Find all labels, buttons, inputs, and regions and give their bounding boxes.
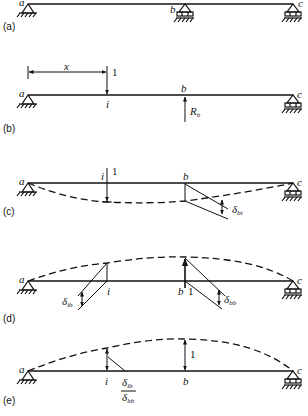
label-b: b: [178, 285, 184, 297]
offset-line: [78, 263, 107, 296]
label-b: b: [183, 375, 189, 387]
influence-line: [28, 339, 293, 371]
label-c: c: [298, 0, 303, 9]
label-i: i: [106, 98, 109, 110]
panel-tag: (b): [3, 123, 15, 134]
label-c: c: [297, 274, 302, 286]
label-c: c: [297, 176, 302, 188]
label-b: b: [183, 170, 189, 182]
label-i: i: [101, 170, 104, 182]
panel-e: 1 i δib δbb b a c (e): [3, 339, 302, 406]
panel-c: 1 i δbi b a c (c): [3, 165, 302, 219]
delta-bb-label: δbb: [224, 293, 237, 307]
load-label: 1: [112, 66, 118, 78]
label-c: c: [297, 364, 302, 376]
leader-line: [108, 357, 125, 371]
delta-bi-label: δbi: [232, 203, 243, 217]
label-c: c: [297, 88, 302, 100]
panel-tag: (e): [3, 395, 15, 406]
ordinate-b-label: 1: [190, 348, 196, 360]
label-b: b: [181, 82, 187, 94]
ratio-numerator: δib: [122, 376, 133, 390]
panel-a: a b c (a): [3, 0, 303, 32]
label-b: b: [170, 3, 176, 15]
label-a: a: [19, 363, 25, 375]
roller-support-icon: [174, 4, 194, 22]
panel-b: x 1 i Rb b a c (b): [3, 60, 302, 134]
panel-d: δib i δbb b 1 a c (d): [3, 257, 302, 324]
influence-line-diagram: a b c (a) x 1 i Rb b a c (b) 1 i: [0, 0, 308, 416]
label-a: a: [19, 273, 25, 285]
delta-ib-label: δib: [62, 295, 73, 309]
panel-tag: (c): [3, 206, 15, 217]
label-a: a: [19, 87, 25, 99]
label-a: a: [19, 0, 25, 8]
panel-tag: (d): [3, 313, 15, 324]
label-x: x: [63, 60, 69, 72]
deflected-shape: [28, 183, 293, 203]
load-label: 1: [112, 165, 118, 177]
label-i: i: [107, 285, 110, 297]
reaction-label: Rb: [189, 105, 201, 119]
load-label: 1: [188, 285, 194, 297]
deflected-shape: [28, 257, 293, 281]
panel-tag: (a): [3, 21, 15, 32]
label-i: i: [105, 375, 108, 387]
label-a: a: [19, 175, 25, 187]
ratio-denominator: δbb: [122, 391, 135, 405]
